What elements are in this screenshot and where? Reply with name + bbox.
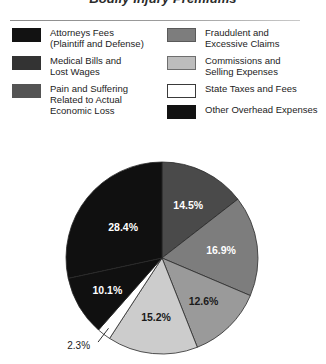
chart-container: Bodily Injury Premiums Attorneys Fees (P… bbox=[0, 0, 326, 364]
legend-label-attorneys-fees: Attorneys Fees (Plaintiff and Defense) bbox=[50, 27, 144, 49]
pie-label-2-3: 2.3% bbox=[67, 340, 90, 351]
legend-item-other-overhead[interactable]: Other Overhead Expenses bbox=[167, 104, 322, 119]
legend-item-fraudulent-claims[interactable]: Fraudulent and Excessive Claims bbox=[167, 27, 322, 49]
legend-swatch-fraudulent-claims bbox=[167, 28, 196, 42]
legend-swatch-medical-bills bbox=[12, 56, 41, 70]
pie-label-15-2: 15.2% bbox=[141, 311, 171, 323]
legend-swatch-other-overhead bbox=[167, 105, 196, 119]
legend-item-commissions[interactable]: Commissions and Selling Expenses bbox=[167, 55, 322, 77]
legend-item-attorneys-fees[interactable]: Attorneys Fees (Plaintiff and Defense) bbox=[12, 27, 162, 49]
legend-swatch-attorneys-fees bbox=[12, 28, 41, 42]
pie-label-14-5: 14.5% bbox=[173, 199, 203, 211]
legend-item-medical-bills[interactable]: Medical Bills and Lost Wages bbox=[12, 55, 162, 77]
legend-column-right: Fraudulent and Excessive Claims Commissi… bbox=[167, 27, 322, 125]
pie-label-12-6: 12.6% bbox=[189, 295, 219, 307]
legend-label-fraudulent-claims: Fraudulent and Excessive Claims bbox=[205, 27, 279, 49]
legend: Attorneys Fees (Plaintiff and Defense) M… bbox=[0, 27, 326, 132]
legend-label-state-taxes: State Taxes and Fees bbox=[205, 83, 297, 94]
legend-swatch-commissions bbox=[167, 56, 196, 70]
pie-label-28-4: 28.4% bbox=[108, 221, 138, 233]
pie-chart-svg: 14.5%16.9%12.6%15.2%2.3%10.1%28.4% bbox=[63, 159, 261, 357]
pie-label-10-1: 10.1% bbox=[92, 284, 122, 296]
legend-label-medical-bills: Medical Bills and Lost Wages bbox=[50, 55, 121, 77]
pie-label-16-9: 16.9% bbox=[206, 244, 236, 256]
title-divider bbox=[10, 20, 300, 21]
legend-column-left: Attorneys Fees (Plaintiff and Defense) M… bbox=[12, 27, 162, 122]
legend-swatch-state-taxes bbox=[167, 84, 196, 98]
pie-chart: 14.5%16.9%12.6%15.2%2.3%10.1%28.4% bbox=[63, 159, 261, 357]
legend-label-commissions: Commissions and Selling Expenses bbox=[205, 55, 281, 77]
legend-item-pain-and-suffering[interactable]: Pain and Suffering Related to Actual Eco… bbox=[12, 83, 162, 116]
page-title: Bodily Injury Premiums bbox=[0, 0, 326, 6]
legend-label-other-overhead: Other Overhead Expenses bbox=[205, 104, 317, 115]
legend-item-state-taxes[interactable]: State Taxes and Fees bbox=[167, 83, 322, 98]
legend-label-pain-and-suffering: Pain and Suffering Related to Actual Eco… bbox=[50, 83, 128, 116]
legend-swatch-pain-and-suffering bbox=[12, 84, 41, 98]
pie-slices bbox=[66, 162, 258, 354]
